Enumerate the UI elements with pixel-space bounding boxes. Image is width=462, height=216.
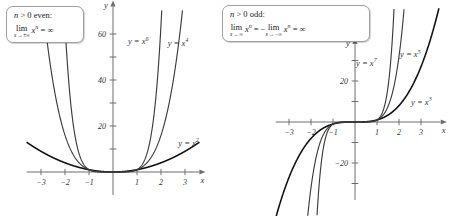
- curve-label-odd-powers-2: y = x7: [355, 57, 378, 67]
- x-ticklabel-odd-powers-2: −1: [328, 128, 337, 137]
- x-ticklabel-even-powers-5: 3: [182, 178, 187, 187]
- callout-odd-lim-2: lim x → −∞: [266, 23, 282, 37]
- callout-odd-box: n > 0 odd: lim x → ∞ xn = − lim x → −∞ x…: [222, 5, 370, 42]
- callout-odd-lim-sub-1: x → ∞: [230, 32, 243, 37]
- callout-odd-lim-1: lim x → ∞: [230, 23, 243, 37]
- curve-label-base-even-powers-1: y = x: [167, 38, 186, 48]
- x-axis-arrow-even-powers: [199, 169, 205, 174]
- x-ticklabel-odd-powers-0: −3: [284, 128, 293, 137]
- x-ticklabel-even-powers-3: 1: [135, 178, 139, 187]
- x-ticklabel-even-powers-4: 2: [159, 178, 163, 187]
- curve-label-odd-powers-1: y = x5: [399, 49, 421, 59]
- curve-label-sup-even-powers-1: 4: [185, 37, 188, 43]
- x-ticklabel-even-powers-1: −2: [60, 178, 69, 187]
- callout-odd-line1: n > 0 odd:: [230, 9, 362, 20]
- callout-even-cond: > 0 even:: [18, 10, 52, 20]
- curve-label-sup-odd-powers-0: 3: [428, 96, 432, 102]
- curve-label-base-odd-powers-2: y = x: [355, 58, 374, 68]
- curve-label-base-even-powers-0: y = x: [177, 138, 196, 148]
- x-ticklabel-odd-powers-3: 1: [375, 128, 379, 137]
- curve-label-sup-even-powers-2: 6: [145, 36, 148, 42]
- y-axis-arrow-even-powers: [110, 0, 115, 6]
- curve-label-sup-odd-powers-1: 5: [418, 49, 421, 55]
- callout-even-box: n > 0 even: lim x → ±∞ xn = ∞: [6, 6, 84, 43]
- callout-even-line2: lim x → ±∞ xn = ∞: [14, 22, 76, 38]
- curve-label-base-even-powers-2: y = x: [127, 36, 146, 46]
- callout-odd-lim-sub-2: x → −∞: [266, 32, 282, 37]
- callout-odd-tail: = ∞: [291, 24, 306, 34]
- curve-label-sup-odd-powers-2: 7: [374, 57, 378, 63]
- callout-odd-cond: > 0 odd:: [234, 9, 265, 19]
- y-ticklabel-odd-powers-1: −20: [335, 159, 348, 168]
- y-ticklabel-even-powers-0: 20: [98, 122, 106, 131]
- x-ticklabel-odd-powers-5: 3: [418, 128, 423, 137]
- y-ticklabel-even-powers-2: 60: [98, 30, 106, 39]
- curve-label-sup-even-powers-0: 2: [196, 137, 199, 143]
- x-ticklabel-odd-powers-4: 2: [397, 128, 401, 137]
- x-axis-label-even-powers: x: [199, 175, 204, 185]
- x-axis-arrow-odd-powers: [441, 119, 447, 124]
- curve-label-odd-powers-0: y = x3: [410, 96, 432, 106]
- curve-label-even-powers-1: y = x4: [167, 37, 189, 47]
- curve-label-base-odd-powers-1: y = x: [399, 49, 418, 59]
- curve-label-even-powers-2: y = x6: [127, 36, 149, 46]
- power-functions-figure: xy−3−2−1123204060y = x2y = x4y = x6xy−3−…: [0, 0, 462, 216]
- callout-even-expr-rest: = ∞: [38, 25, 53, 35]
- curve-label-even-powers-0: y = x2: [177, 137, 199, 147]
- callout-odd-line2: lim x → ∞ xn = − lim x → −∞ xn = ∞: [230, 21, 362, 37]
- x-axis-label-odd-powers: x: [441, 125, 446, 135]
- y-axis-label-even-powers: y: [103, 0, 108, 10]
- callout-even-lim-sub: x → ±∞: [14, 33, 29, 38]
- y-ticklabel-odd-powers-0: 20: [340, 77, 348, 86]
- x-ticklabel-even-powers-2: −1: [84, 178, 93, 187]
- callout-odd-mid: = −: [252, 24, 266, 34]
- y-ticklabel-even-powers-1: 40: [98, 76, 106, 85]
- callout-even-lim: lim x → ±∞: [14, 24, 29, 38]
- x-ticklabel-even-powers-0: −3: [36, 178, 45, 187]
- curve-label-base-odd-powers-0: y = x: [410, 97, 429, 107]
- callout-even-line1: n > 0 even:: [14, 10, 76, 21]
